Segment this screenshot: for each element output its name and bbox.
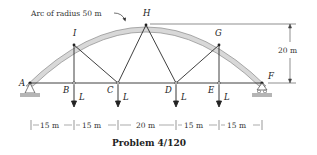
load-label-E: L: [223, 92, 230, 102]
span-AB: 15 m: [40, 121, 59, 130]
arch-member: [26, 27, 266, 86]
load-arrows: [72, 85, 222, 107]
load-label-C: L: [122, 92, 129, 102]
span-DE: 15 m: [184, 121, 203, 130]
span-CD: 20 m: [136, 121, 155, 130]
label-C: C: [107, 85, 114, 95]
load-label-B: L: [78, 92, 85, 102]
truss-diagram: A B C D E F G H I L L L L Arc of radius …: [0, 0, 317, 155]
member-IC: [74, 45, 118, 83]
label-G: G: [215, 28, 222, 38]
height-dimension-label: 20 m: [278, 46, 297, 55]
arc-radius-label: Arc of radius 50 m: [30, 9, 102, 18]
label-F: F: [267, 71, 275, 81]
joint-markers: [28, 24, 263, 85]
span-EF: 15 m: [227, 121, 246, 130]
label-B: B: [62, 85, 69, 95]
label-A: A: [18, 78, 25, 88]
member-DG: [176, 45, 219, 83]
load-label-D: L: [180, 92, 187, 102]
figure-caption: Problem 4/120: [112, 138, 186, 148]
label-H: H: [142, 8, 151, 18]
roller-support-F: [252, 83, 272, 97]
label-D: D: [164, 85, 172, 95]
label-I: I: [72, 28, 77, 38]
label-E: E: [207, 85, 215, 95]
span-BC: 15 m: [82, 121, 101, 130]
